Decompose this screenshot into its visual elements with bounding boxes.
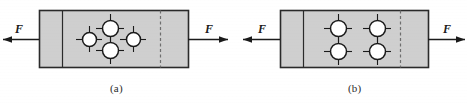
force-arrow-panel-a-right xyxy=(188,36,228,42)
caption-a: (a) xyxy=(110,82,123,94)
force-label-a-left: F xyxy=(15,22,23,37)
panel-b xyxy=(243,11,465,68)
plate-outline-panel-a xyxy=(40,11,189,68)
panel-a xyxy=(3,11,228,68)
force-arrow-head xyxy=(3,36,12,42)
force-label-b-left: F xyxy=(258,22,266,37)
rivet-circle xyxy=(370,44,386,60)
caption-b: (b) xyxy=(348,82,361,94)
plate-outline-panel-b xyxy=(281,11,429,68)
riveted-joint-diagram-a xyxy=(0,0,467,103)
rivet-circle xyxy=(103,43,119,59)
rivet-circle xyxy=(370,21,386,37)
rivet-circle xyxy=(83,33,97,47)
force-label-a-right: F xyxy=(205,22,213,37)
rivet-circle xyxy=(103,21,119,37)
force-arrow-head xyxy=(219,36,228,42)
rivet-circle xyxy=(331,21,347,37)
figure-root: F F (a) F F (b) xyxy=(0,0,467,103)
force-arrow-panel-b-left xyxy=(243,36,280,42)
rivet-circle xyxy=(331,44,347,60)
rivet-circle xyxy=(127,33,141,47)
force-arrow-panel-b-right xyxy=(428,36,465,42)
force-arrow-head xyxy=(243,36,252,42)
force-arrow-panel-a-left xyxy=(3,36,39,42)
force-arrow-head xyxy=(456,36,465,42)
force-label-b-right: F xyxy=(443,22,451,37)
